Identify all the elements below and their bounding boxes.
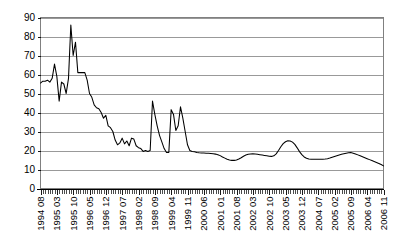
x-tick-label: 1994 08 bbox=[35, 197, 46, 231]
y-tick-label: 60 bbox=[24, 69, 36, 80]
x-tick-label: 2001 01 bbox=[215, 197, 226, 231]
x-axis bbox=[37, 190, 385, 195]
y-tick-label: 50 bbox=[24, 88, 36, 99]
y-tick-label: 20 bbox=[24, 145, 36, 156]
x-axis-tick-labels: 1994 081995 031995 101996 051996 121997 … bbox=[35, 197, 389, 231]
x-tick-label: 2003 12 bbox=[296, 197, 307, 231]
y-tick-label: 40 bbox=[24, 107, 36, 118]
y-tick-label: 90 bbox=[24, 12, 36, 23]
x-tick-label: 2006 11 bbox=[378, 197, 389, 231]
x-tick-label: 2003 05 bbox=[280, 197, 291, 231]
line-chart: 0102030405060708090 1994 081995 031995 1… bbox=[0, 0, 400, 247]
y-tick-label: 10 bbox=[24, 164, 36, 175]
x-tick-label: 1999 04 bbox=[166, 197, 177, 231]
x-tick-label: 2001 08 bbox=[231, 197, 242, 231]
plot-background bbox=[40, 17, 383, 188]
x-tick-label: 1995 10 bbox=[68, 197, 79, 231]
x-tick-label: 1996 12 bbox=[100, 197, 111, 231]
x-tick-label: 2004 07 bbox=[313, 197, 324, 231]
y-axis-tick-labels: 0102030405060708090 bbox=[24, 12, 41, 194]
y-tick-label: 70 bbox=[24, 50, 36, 61]
x-tick-label: 1996 05 bbox=[84, 197, 95, 231]
x-tick-label: 2006 04 bbox=[362, 197, 373, 231]
x-tick-label: 2002 03 bbox=[247, 197, 258, 231]
x-tick-label: 2000 06 bbox=[198, 197, 209, 231]
y-tick-label: 30 bbox=[24, 126, 36, 137]
x-tick-label: 1999 11 bbox=[182, 197, 193, 231]
x-tick-label: 2002 10 bbox=[264, 197, 275, 231]
x-tick-label: 1995 03 bbox=[51, 197, 62, 231]
y-tick-label: 80 bbox=[24, 31, 36, 42]
plot-area-rect bbox=[40, 17, 383, 188]
x-tick-label: 2005 02 bbox=[329, 197, 340, 231]
x-tick-label: 1998 02 bbox=[133, 197, 144, 231]
chart-container: 0102030405060708090 1994 081995 031995 1… bbox=[0, 0, 400, 247]
x-tick-label: 1997 07 bbox=[117, 197, 128, 231]
x-tick-label: 1998 09 bbox=[149, 197, 160, 231]
y-tick-label: 0 bbox=[29, 183, 35, 194]
x-tick-label: 2005 09 bbox=[345, 197, 356, 231]
